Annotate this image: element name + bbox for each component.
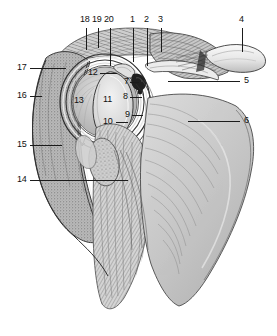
leader-line-9: [132, 115, 143, 116]
label-7: 7: [124, 77, 129, 86]
leader-line-1: [133, 28, 134, 62]
label-3: 3: [158, 15, 163, 24]
label-9: 9: [125, 110, 130, 119]
leader-line-16: [30, 96, 42, 97]
label-18: 18: [80, 15, 90, 24]
leader-line-17: [30, 68, 66, 69]
label-12: 12: [88, 68, 98, 77]
label-15: 15: [17, 140, 27, 149]
leader-line-8: [130, 97, 142, 98]
leader-line-18: [86, 28, 87, 50]
label-2: 2: [144, 15, 149, 24]
label-20: 20: [104, 15, 114, 24]
leader-line-5: [168, 81, 240, 82]
leader-line-4: [242, 28, 243, 52]
label-11: 11: [103, 95, 112, 104]
leader-line-7: [130, 82, 139, 83]
leader-line-12: [100, 73, 117, 74]
shoulder-joint-illustration: [0, 0, 277, 336]
label-14: 14: [17, 175, 27, 184]
label-8: 8: [123, 92, 128, 101]
label-1: 1: [130, 15, 135, 24]
label-10: 10: [103, 117, 113, 126]
label-19: 19: [92, 15, 102, 24]
leader-line-10: [116, 122, 128, 123]
leader-line-14: [30, 180, 128, 181]
label-6: 6: [244, 116, 249, 125]
label-16: 16: [17, 91, 27, 100]
label-13: 13: [74, 96, 84, 105]
figure-canvas: 18 19 20 1 2 3 4 5 6 7 8 9 10 11 12 13 1…: [0, 0, 277, 336]
label-5: 5: [244, 76, 249, 85]
label-4: 4: [239, 15, 244, 24]
leader-line-15: [30, 145, 62, 146]
leader-line-19: [98, 28, 99, 48]
label-17: 17: [17, 63, 27, 72]
leader-line-2: [147, 28, 148, 66]
leader-line-6: [188, 121, 240, 122]
leader-line-3: [161, 28, 162, 52]
leader-line-20: [110, 28, 111, 66]
